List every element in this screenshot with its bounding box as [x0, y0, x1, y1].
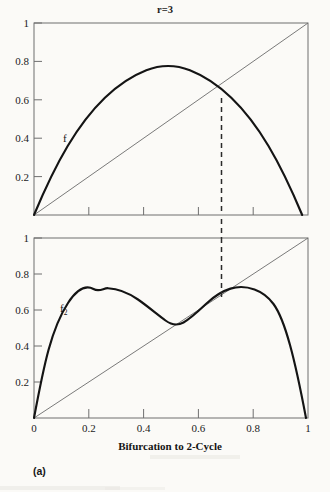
x-ticks-top	[89, 207, 253, 215]
y-ticklabel-bottom-04: 0.4	[15, 340, 29, 352]
x-ticklabel-04: 0.4	[137, 422, 151, 434]
chart-title: r=3	[157, 4, 173, 15]
panel-caption: (a)	[33, 465, 46, 477]
panel-f: 1 0.8 0.6 0.4 0.2 f	[15, 17, 308, 215]
x-ticklabel-1: 1	[305, 422, 311, 434]
y-ticks-bottom	[34, 238, 42, 382]
y-ticklabel-top-02: 0.2	[15, 171, 29, 183]
figure-svg: r=3 1 0.8 0.6 0.4	[0, 0, 330, 492]
x-ticklabel-08: 0.8	[246, 422, 260, 434]
figure-container: r=3 1 0.8 0.6 0.4	[0, 0, 330, 492]
y-ticklabel-bottom-1: 1	[24, 232, 30, 244]
curve-label-f: f	[63, 132, 67, 144]
y-ticklabel-top-04: 0.4	[15, 132, 29, 144]
identity-line-bottom	[34, 238, 308, 418]
y-ticklabel-bottom-06: 0.6	[15, 304, 29, 316]
panel-f2: 1 0.8 0.6 0.4 0.2 f2 0 0.2 0.4 0.6 0.8 1	[15, 232, 311, 434]
x-ticklabel-06: 0.6	[192, 422, 206, 434]
y-ticklabel-top-1: 1	[24, 17, 30, 29]
curve-f	[34, 66, 302, 215]
y-ticklabel-top-08: 0.8	[15, 55, 29, 67]
x-ticks-bottom	[89, 409, 253, 418]
y-ticks-top	[34, 23, 42, 177]
x-ticklabel-02: 0.2	[82, 422, 96, 434]
identity-line-top	[34, 23, 308, 215]
x-axis-label: Bifurcation to 2-Cycle	[118, 440, 222, 452]
y-ticklabel-bottom-02: 0.2	[15, 376, 29, 388]
x-ticklabel-0: 0	[31, 422, 37, 434]
y-ticklabel-top-06: 0.6	[15, 94, 29, 106]
y-ticklabel-bottom-08: 0.8	[15, 268, 29, 280]
curve-f2	[34, 287, 306, 418]
